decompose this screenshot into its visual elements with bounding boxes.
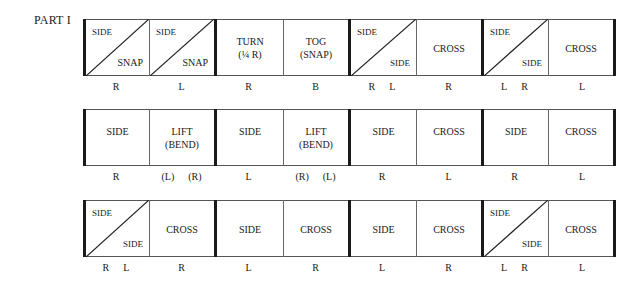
foot-letter: R	[312, 262, 319, 273]
foot-letter: R	[369, 81, 376, 92]
foot-letter: L	[579, 262, 585, 273]
step-row-2: SIDERLIFT (BEND)(L)(R)SIDELLIFT (BEND)(R…	[83, 109, 616, 166]
foot-indicator: L	[416, 171, 481, 182]
foot-indicator: (R)(L)	[283, 171, 348, 182]
foot-indicator: R	[214, 81, 283, 92]
step-cell: SIDE	[83, 109, 149, 166]
foot-indicator: L	[548, 81, 616, 92]
step-label-second: SIDE	[522, 239, 542, 249]
step-cell: CROSS	[548, 109, 616, 166]
step-label-first: SIDE	[490, 208, 510, 218]
step-cell: SIDESIDE	[348, 19, 416, 76]
foot-letter: L	[445, 171, 451, 182]
foot-indicator: LR	[481, 81, 548, 92]
step-label: SIDE	[86, 125, 149, 138]
foot-letter: B	[312, 81, 319, 92]
step-label-first: SIDE	[490, 27, 510, 37]
foot-letter: R	[178, 262, 185, 273]
foot-letter: R	[113, 81, 120, 92]
step-label-second: SIDE	[522, 58, 542, 68]
step-label-first: SIDE	[357, 27, 377, 37]
step-label-first: SIDE	[156, 27, 176, 37]
foot-letter: L	[501, 262, 507, 273]
step-cell: CROSS	[149, 200, 214, 257]
foot-letter: R	[103, 262, 110, 273]
foot-letter: R	[521, 81, 528, 92]
foot-letter: (R)	[188, 171, 201, 182]
step-cell: SIDE	[481, 109, 548, 166]
foot-letter: R	[445, 81, 452, 92]
step-cell: SIDE	[348, 200, 416, 257]
foot-letter: L	[123, 262, 129, 273]
step-cell: SIDESNAP	[149, 19, 214, 76]
step-label: CROSS	[284, 222, 348, 235]
step-cell: CROSS	[416, 19, 481, 76]
step-cell: CROSS	[548, 200, 616, 257]
foot-indicator: (L)(R)	[149, 171, 214, 182]
foot-indicator: RL	[348, 81, 416, 92]
foot-letter: R	[245, 81, 252, 92]
foot-indicator: R	[149, 262, 214, 273]
foot-indicator: R	[481, 171, 548, 182]
step-cell: CROSS	[416, 200, 481, 257]
step-label-first: SIDE	[92, 208, 112, 218]
foot-indicator: R	[83, 171, 149, 182]
foot-letter: L	[579, 81, 585, 92]
step-row-3: SIDESIDERLCROSSRSIDELCROSSRSIDELCROSSRSI…	[83, 200, 616, 257]
step-row-1: SIDESNAPRSIDESNAPLTURN (¼ R)RTOG (SNAP)B…	[83, 19, 616, 76]
foot-letter: R	[379, 171, 386, 182]
step-label-first: SIDE	[92, 27, 112, 37]
foot-letter: L	[389, 81, 395, 92]
step-cell: SIDESIDE	[481, 200, 548, 257]
foot-indicator: R	[348, 171, 416, 182]
step-cell: SIDE	[214, 200, 283, 257]
foot-letter: L	[579, 171, 585, 182]
foot-indicator: L	[548, 171, 616, 182]
foot-indicator: L	[214, 262, 283, 273]
foot-indicator: L	[348, 262, 416, 273]
step-label: SIDE	[217, 222, 283, 235]
step-label: CROSS	[417, 41, 481, 54]
foot-letter: L	[379, 262, 385, 273]
foot-letter: L	[245, 171, 251, 182]
foot-indicator: L	[149, 81, 214, 92]
part-label: PART I	[34, 13, 71, 28]
step-cell: TOG (SNAP)	[283, 19, 348, 76]
foot-indicator: LR	[481, 262, 548, 273]
foot-letter: (R)	[295, 171, 308, 182]
step-label: CROSS	[150, 222, 214, 235]
step-label: SIDE	[351, 125, 416, 138]
foot-indicator: R	[416, 262, 481, 273]
step-cell: SIDE	[214, 109, 283, 166]
step-cell: SIDESIDE	[83, 200, 149, 257]
foot-letter: R	[113, 171, 120, 182]
step-cell: SIDE	[348, 109, 416, 166]
foot-indicator: B	[283, 81, 348, 92]
foot-indicator: RL	[83, 262, 149, 273]
foot-letter: L	[501, 81, 507, 92]
step-label-second: SNAP	[182, 57, 208, 68]
foot-letter: R	[445, 262, 452, 273]
foot-indicator: R	[416, 81, 481, 92]
step-label: LIFT (BEND)	[284, 125, 348, 151]
foot-indicator: L	[548, 262, 616, 273]
step-cell: CROSS	[283, 200, 348, 257]
step-label: LIFT (BEND)	[150, 125, 214, 151]
foot-letter: R	[511, 171, 518, 182]
foot-indicator: L	[214, 171, 283, 182]
step-cell: SIDESNAP	[83, 19, 149, 76]
step-label-second: SIDE	[390, 58, 410, 68]
step-cell: TURN (¼ R)	[214, 19, 283, 76]
foot-letter: L	[245, 262, 251, 273]
step-label: SIDE	[351, 222, 416, 235]
step-label: TOG (SNAP)	[284, 35, 348, 61]
step-label: CROSS	[549, 222, 613, 235]
foot-letter: L	[178, 81, 184, 92]
foot-letter: R	[521, 262, 528, 273]
step-cell: LIFT (BEND)	[283, 109, 348, 166]
foot-letter: (L)	[323, 171, 336, 182]
step-label: CROSS	[549, 125, 613, 138]
step-label: SIDE	[484, 125, 548, 138]
step-label: CROSS	[549, 41, 613, 54]
step-cell: CROSS	[548, 19, 616, 76]
